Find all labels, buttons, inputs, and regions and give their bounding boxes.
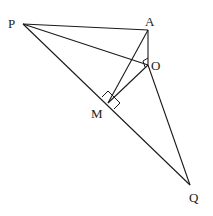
label-A: A [145, 14, 155, 29]
segment-PA [23, 24, 148, 30]
segment-PO [23, 24, 148, 65]
segment-AM [108, 30, 148, 103]
label-M: M [91, 106, 103, 121]
label-P: P [8, 16, 15, 31]
label-Q: Q [189, 190, 199, 205]
segment-OQ [148, 65, 190, 185]
geometry-diagram: P A O M Q [0, 0, 213, 216]
segment-PQ [23, 24, 190, 185]
right-angle-mark-QMO [114, 97, 120, 109]
label-O: O [151, 58, 160, 73]
